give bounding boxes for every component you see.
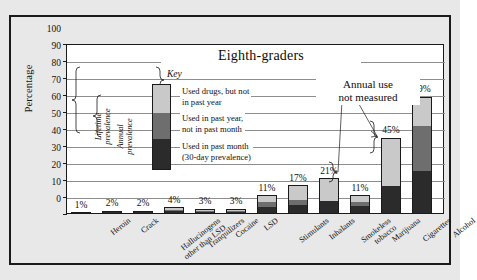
chart-outer-frame: Percentage 100 90 80 70 60 50 40 30 20 1… — [9, 15, 451, 265]
y-tick-10: 10 — [21, 178, 61, 188]
y-tick-0: 0 — [21, 195, 61, 205]
bar-smokeless-tobacco[interactable] — [319, 178, 339, 214]
y-tick-70: 70 — [21, 76, 61, 86]
legend: Key Lifetimeprevalence Annualprevalence … — [91, 69, 271, 174]
chart-title: Eighth-graders — [161, 48, 361, 64]
bar-cocaine[interactable] — [195, 209, 215, 214]
bar-group-cigarettes[interactable]: 45% — [381, 44, 401, 214]
y-tick-50: 50 — [21, 110, 61, 120]
legend-swatch-dark — [153, 139, 170, 169]
bar-group-marijuana[interactable]: 11% — [350, 44, 370, 214]
x-label-crack: Crack — [139, 216, 160, 235]
bar-stimulants[interactable] — [257, 195, 277, 214]
legend-entry-light: Used drugs, but notin past year — [180, 86, 251, 107]
bar-group-alcohol[interactable]: 69% — [412, 44, 432, 214]
legend-swatch-bar — [152, 84, 171, 170]
bar-tranquilizers[interactable] — [164, 207, 184, 214]
bar-lsd[interactable] — [226, 209, 246, 214]
bar-cigarettes[interactable] — [381, 138, 401, 215]
y-tick-30: 30 — [21, 144, 61, 154]
annotation-line-1: Annual use — [318, 78, 418, 91]
bar-hallucinogens[interactable] — [133, 211, 153, 214]
y-axis: Percentage 100 90 80 70 60 50 40 30 20 1… — [11, 17, 66, 217]
y-tick-40: 40 — [21, 127, 61, 137]
legend-swatch-light — [153, 85, 170, 113]
bar-alcohol[interactable] — [412, 97, 432, 214]
y-tick-20: 20 — [21, 161, 61, 171]
bar-label-cigarettes: 45% — [371, 126, 411, 136]
x-axis-labels: Heroin Crack Hallucinogensother than LSD… — [66, 216, 444, 278]
legend-swatch-mid — [153, 113, 170, 138]
y-tick-100: 100 — [21, 25, 61, 35]
bar-group-heroin[interactable]: 1% — [71, 44, 91, 214]
y-tick-mark — [63, 214, 67, 215]
legend-lifetime-prevalence-label: Lifetimeprevalence — [94, 97, 113, 155]
bar-label-lsd: 3% — [216, 197, 256, 207]
annotation-line-2: not measured — [318, 91, 418, 104]
y-tick-60: 60 — [21, 93, 61, 103]
y-tick-80: 80 — [21, 59, 61, 69]
bar-crack[interactable] — [102, 211, 122, 214]
x-label-cigarettes: Cigarettes — [421, 216, 453, 244]
legend-title: Key — [164, 69, 185, 79]
bar-label-marijuana: 11% — [340, 184, 380, 194]
legend-entry-dark: Used in past month(30-day prevalence) — [180, 141, 253, 162]
bar-label-smokeless-tobacco: 21% — [309, 167, 349, 177]
x-label-lsd: LSD — [262, 216, 280, 233]
annotation-annual-use-not-measured: Annual use not measured — [316, 77, 420, 105]
bar-marijuana[interactable] — [350, 195, 370, 214]
x-label-stimulants: Stimulants — [297, 216, 330, 245]
bar-label-stimulants: 11% — [247, 184, 287, 194]
bar-heroin[interactable] — [71, 212, 91, 214]
legend-annual-prevalence-label: Annualprevalence — [116, 110, 135, 162]
y-tick-90: 90 — [21, 42, 61, 52]
x-label-inhalants: Inhalants — [327, 216, 356, 242]
x-label-heroin: Heroin — [109, 216, 133, 237]
bar-inhalants[interactable] — [288, 185, 308, 214]
bar-group-smokeless-tobacco[interactable]: 21% — [319, 44, 339, 214]
legend-entry-mid: Used in past year,not in past month — [180, 113, 245, 134]
bar-group-inhalants[interactable]: 17% — [288, 44, 308, 214]
x-label-alcohol: Alcohol — [451, 216, 477, 239]
